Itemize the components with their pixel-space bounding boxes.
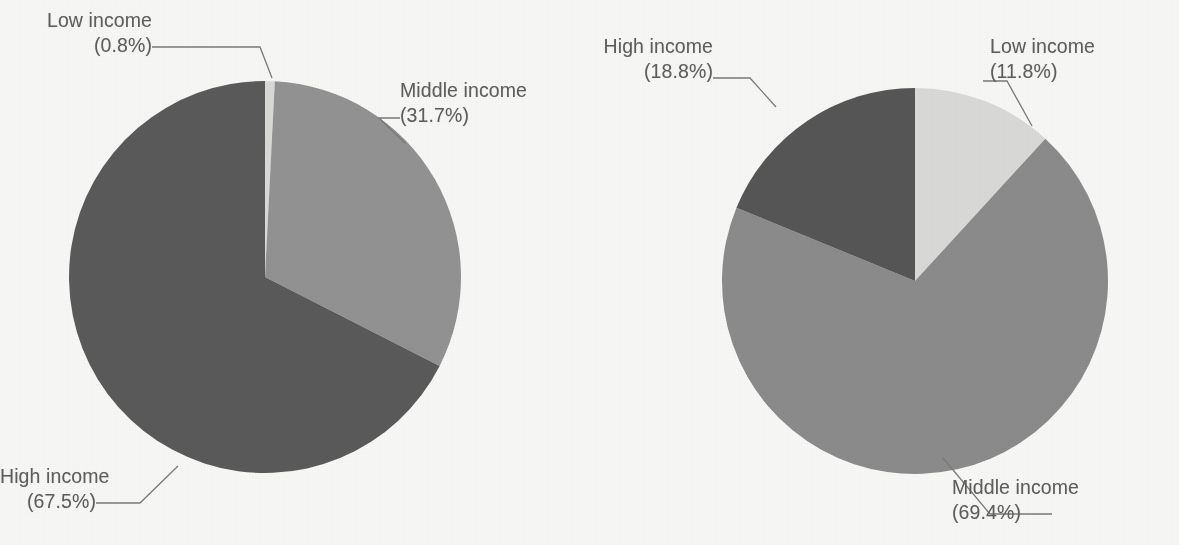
label-low-income-left-value: (0.8%) bbox=[0, 33, 152, 58]
leader-line-low-income-left bbox=[152, 47, 272, 78]
label-low-income-left-name: Low income bbox=[47, 9, 152, 31]
pie-chart-left: Low income (0.8%) Middle income (31.7%) … bbox=[0, 0, 590, 545]
label-low-income-right: Low income (11.8%) bbox=[990, 34, 1170, 84]
figure-pie-charts: Low income (0.8%) Middle income (31.7%) … bbox=[0, 0, 1179, 545]
label-high-income-left-name: High income bbox=[0, 465, 109, 487]
label-middle-income-right-name: Middle income bbox=[952, 476, 1079, 498]
label-middle-income-right: Middle income (69.4%) bbox=[952, 475, 1172, 525]
label-high-income-left: High income (67.5%) bbox=[0, 464, 96, 514]
label-low-income-right-value: (11.8%) bbox=[990, 59, 1170, 84]
leader-line-high-income-right bbox=[713, 78, 776, 107]
label-middle-income-left: Middle income (31.7%) bbox=[400, 78, 585, 128]
label-middle-income-left-name: Middle income bbox=[400, 79, 527, 101]
label-high-income-right-value: (18.8%) bbox=[590, 59, 713, 84]
label-low-income-left: Low income (0.8%) bbox=[0, 8, 152, 58]
pie-chart-right: High income (18.8%) Low income (11.8%) M… bbox=[590, 0, 1179, 545]
label-middle-income-left-value: (31.7%) bbox=[400, 103, 585, 128]
label-high-income-left-value: (67.5%) bbox=[0, 489, 96, 514]
label-middle-income-right-value: (69.4%) bbox=[952, 500, 1172, 525]
label-low-income-right-name: Low income bbox=[990, 35, 1095, 57]
label-high-income-right: High income (18.8%) bbox=[590, 34, 713, 84]
label-high-income-right-name: High income bbox=[604, 35, 713, 57]
